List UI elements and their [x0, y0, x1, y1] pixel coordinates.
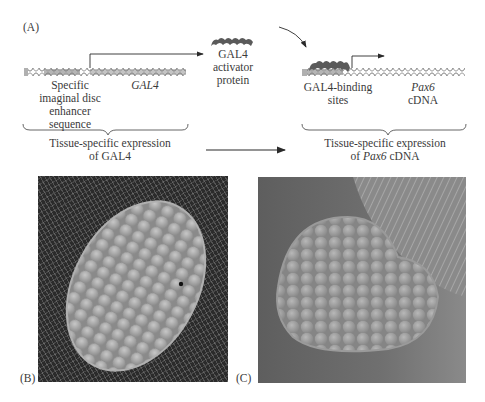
right-brace-icon — [302, 124, 466, 135]
gal4-protein-icon — [211, 38, 253, 46]
binding-arrow-icon — [279, 27, 306, 47]
left-dna-construct — [24, 54, 203, 76]
pax6-cdna-label: Pax6 cDNA — [398, 81, 448, 107]
binding-sites-label: GAL4-binding sites — [298, 81, 378, 107]
gal4-gene-label: GAL4 — [115, 79, 175, 92]
protein-label: GAL4 activator protein — [208, 48, 258, 87]
photo-b-normal-eye — [38, 176, 228, 382]
left-caption: Tissue-specific expression of GAL4 — [30, 137, 190, 163]
eye-c-svg — [258, 177, 466, 383]
right-dna-construct — [302, 56, 465, 76]
pax6-transcription-arrow-icon — [352, 56, 384, 68]
transcription-arrow-icon — [90, 54, 203, 68]
panel-b-letter: (B) — [20, 372, 35, 384]
eye-b-svg — [38, 176, 228, 382]
photo-c-ectopic-eye — [258, 177, 466, 383]
enhancer-label: Specific imaginal disc enhancer sequence — [20, 79, 120, 131]
compound-eye-icon — [39, 177, 228, 382]
panel-c-letter: (C) — [236, 372, 251, 384]
right-caption: Tissue-specific expression of Pax6 cDNA — [305, 137, 465, 163]
